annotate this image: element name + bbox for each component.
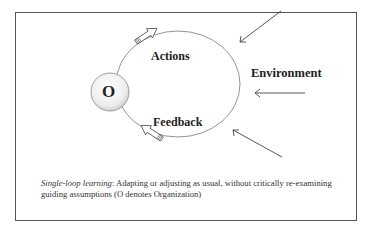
feedback-label: Feedback — [153, 115, 202, 130]
caption: Single-loop learning: Adapting or adjust… — [41, 178, 341, 200]
caption-term: Single-loop learning — [41, 178, 112, 188]
environment-arrow-bottom-icon — [233, 130, 282, 157]
center-node-label: O — [102, 82, 115, 102]
environment-label: Environment — [251, 66, 322, 81]
actions-label: Actions — [151, 49, 190, 64]
actions-arrow-icon — [133, 24, 160, 47]
environment-arrow-middle-icon — [255, 89, 305, 97]
environment-arrow-top-icon — [240, 11, 281, 42]
